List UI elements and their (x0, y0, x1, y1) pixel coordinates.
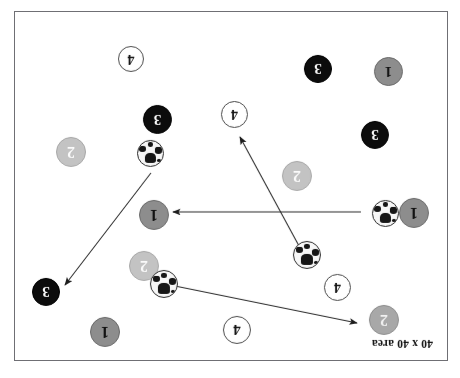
soccer-ball-icon (150, 270, 178, 298)
ball-patch (171, 290, 175, 294)
ball-patch (380, 213, 392, 223)
player-number: 3 (42, 285, 50, 300)
player-marker-1: 1 (399, 198, 429, 228)
ball-patch (314, 261, 318, 265)
player-number: 4 (231, 108, 238, 122)
player-marker-2: 2 (282, 161, 312, 191)
player-marker-1: 1 (139, 200, 169, 230)
clipped-header-text: r r r r r r r r r r r r, p (0, 0, 460, 9)
player-number: 1 (410, 205, 418, 221)
scanned-page: r r r r r r r r r r r r, p 4123421122343… (0, 0, 460, 378)
field-size-caption: 40 x 40 area (372, 338, 433, 350)
ball-patch (393, 219, 397, 223)
ball-patch (161, 273, 167, 278)
ball-patch (304, 244, 310, 249)
player-number: 2 (293, 168, 301, 184)
player-number: 1 (385, 64, 393, 79)
player-number: 4 (233, 323, 241, 338)
soccer-ball-icon (137, 140, 164, 167)
player-marker-2: 2 (56, 137, 86, 167)
ball-patch (148, 143, 154, 148)
drill-diagram-content: 4123421122343134 40 x 40 area (15, 12, 447, 360)
player-number: 1 (150, 207, 158, 223)
ball-patch (158, 159, 162, 163)
player-marker-3: 3 (361, 121, 389, 149)
drill-diagram-field: 4123421122343134 40 x 40 area (14, 11, 448, 361)
player-marker-3: 3 (304, 55, 332, 83)
ball-patch (153, 276, 160, 283)
player-marker-4: 4 (223, 316, 251, 344)
ball-patch (140, 146, 147, 152)
ball-patch (301, 255, 313, 265)
clipped-header-text-line: r r r r r r r r r r r r, p (8, 0, 452, 1)
player-marker-1: 1 (374, 57, 403, 86)
player-marker-3: 3 (32, 278, 60, 306)
player-marker-4: 4 (221, 101, 248, 128)
pass-ball-to-player-4-center (240, 137, 305, 257)
ball-patch (390, 208, 398, 215)
player-number: 1 (101, 324, 109, 340)
ball-patch (169, 278, 177, 285)
player-marker-2: 2 (369, 305, 399, 335)
player-number: 2 (140, 258, 148, 274)
player-number: 3 (314, 62, 322, 77)
player-number: 2 (380, 312, 388, 328)
ball-patch (155, 148, 163, 155)
player-number: 3 (154, 112, 162, 127)
player-marker-1: 1 (90, 317, 120, 347)
ball-patch (158, 284, 170, 294)
player-marker-4: 4 (324, 274, 351, 301)
player-marker-3: 3 (143, 105, 172, 134)
soccer-ball-icon (372, 200, 399, 227)
ball-patch (312, 249, 320, 256)
player-number: 4 (334, 281, 341, 295)
ball-patch (145, 153, 157, 163)
player-number: 2 (67, 144, 75, 160)
ball-patch (383, 203, 389, 208)
player-marker-4: 4 (118, 46, 144, 72)
player-number: 3 (371, 128, 379, 143)
soccer-ball-icon (293, 241, 321, 269)
ball-patch (296, 247, 303, 254)
player-number: 4 (128, 52, 135, 66)
ball-patch (375, 206, 382, 212)
